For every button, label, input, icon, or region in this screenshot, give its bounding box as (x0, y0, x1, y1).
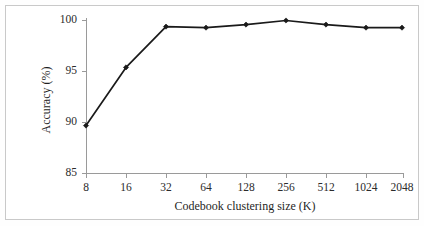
x-tick-label: 16 (120, 181, 132, 193)
data-point-marker (363, 25, 368, 30)
y-tick-label: 100 (60, 13, 78, 25)
x-tick-label: 1024 (355, 181, 378, 193)
y-axis-tick-labels: 100 95 90 85 (60, 13, 78, 178)
data-point-marker (283, 18, 288, 23)
line-chart: Accuracy (%) 100 95 90 85 (0, 0, 424, 226)
y-tick-label: 95 (66, 64, 78, 76)
x-tick-label: 8 (83, 181, 89, 193)
x-tick-label: 128 (237, 181, 255, 193)
x-axis-tick-labels: 8 16 32 64 128 256 512 1024 2048 (83, 181, 414, 193)
data-point-marker (323, 22, 328, 27)
x-axis-title: Codebook clustering size (K) (175, 199, 316, 213)
y-tick-label: 85 (66, 166, 78, 178)
data-point-marker (243, 22, 248, 27)
y-tick-label: 90 (66, 115, 78, 127)
x-axis-ticks (87, 174, 404, 179)
data-series-accuracy (83, 18, 404, 128)
x-tick-label: 256 (277, 181, 295, 193)
series-line (86, 21, 402, 126)
figure-container: Accuracy (%) 100 95 90 85 (0, 0, 424, 226)
x-tick-label: 2048 (391, 181, 414, 193)
x-tick-label: 32 (160, 181, 172, 193)
y-axis-title: Accuracy (%) (39, 67, 53, 134)
x-tick-label: 64 (200, 181, 212, 193)
y-axis-ticks (82, 21, 87, 174)
data-point-marker (203, 25, 208, 30)
data-point-marker (399, 25, 404, 30)
x-tick-label: 512 (317, 181, 335, 193)
